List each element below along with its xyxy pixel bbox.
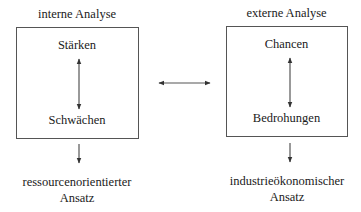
arrows-layer xyxy=(0,0,361,212)
